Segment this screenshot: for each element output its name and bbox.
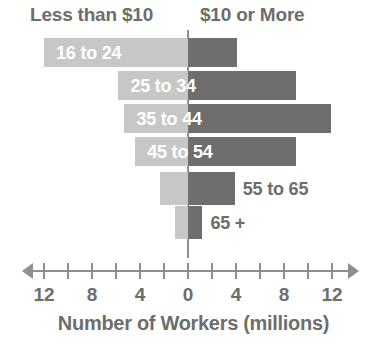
bar-row: 65 + (0, 206, 387, 239)
axis-tick-label: 8 (87, 284, 98, 306)
axis-tick-label: 0 (183, 284, 194, 306)
axis-tick (91, 263, 93, 279)
axis-tick-label: 12 (321, 284, 342, 306)
bar-category-label: 35 to 44 (136, 108, 201, 129)
x-axis-title: Number of Workers (millions) (0, 312, 387, 335)
bar-category-label: 16 to 24 (56, 42, 121, 63)
axis-tick (283, 263, 285, 279)
bar-segment-10-or-more (188, 104, 331, 133)
axis-tick (211, 263, 213, 279)
bar-category-label: 25 to 34 (130, 75, 195, 96)
axis-tick (139, 263, 141, 279)
bar-segment-10-or-more (188, 172, 235, 205)
bar-row: 25 to 34 (0, 71, 387, 100)
axis-tick (115, 263, 117, 279)
bar-category-label: 55 to 65 (243, 178, 308, 199)
axis-tick (331, 263, 333, 279)
axis-tick-label: 4 (135, 284, 146, 306)
legend-label-10-or-more: $10 or More (200, 4, 304, 26)
bar-category-label: 65 + (210, 212, 245, 233)
axis-tick (259, 263, 261, 279)
chart-legend: Less than $10 $10 or More (0, 4, 387, 30)
x-axis: 128404812 (0, 258, 387, 298)
legend-label-less-than-10: Less than $10 (30, 4, 153, 26)
axis-tick (163, 263, 165, 279)
axis-tick (235, 263, 237, 279)
bar-category-label: 45 to 54 (147, 141, 212, 162)
axis-arrow-left-icon (22, 263, 33, 279)
bar-segment-10-or-more (188, 71, 296, 100)
bar-row: 16 to 24 (0, 38, 387, 67)
axis-tick-label: 4 (231, 284, 242, 306)
axis-tick (187, 263, 189, 279)
axis-tick-label: 12 (33, 284, 54, 306)
axis-line (30, 270, 350, 272)
diverging-bar-chart: Less than $10 $10 or More 16 to 2425 to … (0, 0, 387, 347)
bar-row: 45 to 54 (0, 137, 387, 166)
axis-arrow-right-icon (348, 263, 359, 279)
bar-segment-10-or-more (188, 38, 237, 67)
axis-tick-label: 8 (279, 284, 290, 306)
bar-row: 35 to 44 (0, 104, 387, 133)
plot-area: 16 to 2425 to 3435 to 4445 to 5455 to 65… (0, 30, 387, 258)
bar-segment-less-than-10 (160, 172, 188, 205)
bar-segment-less-than-10 (175, 206, 188, 239)
bar-segment-10-or-more (188, 206, 202, 239)
axis-tick (67, 263, 69, 279)
axis-tick (307, 263, 309, 279)
bar-row: 55 to 65 (0, 172, 387, 205)
axis-tick (43, 263, 45, 279)
